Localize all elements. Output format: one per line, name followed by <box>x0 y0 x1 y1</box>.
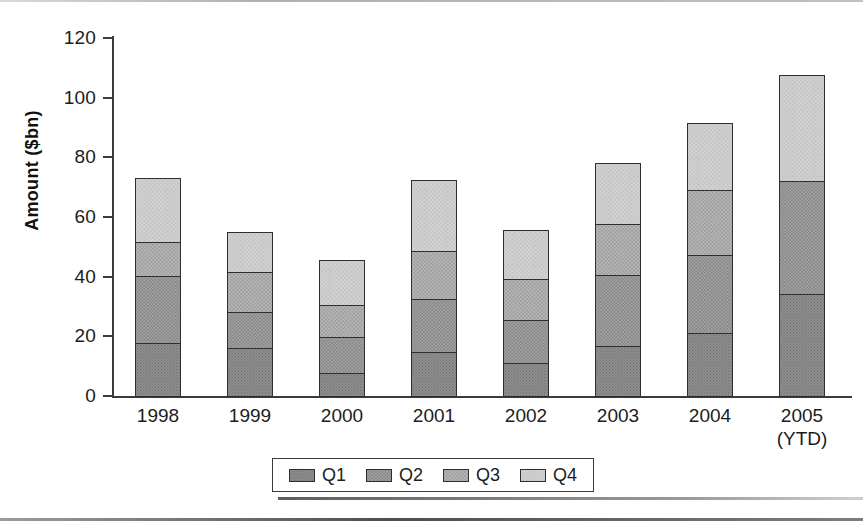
bar-segment-q2[interactable] <box>687 255 733 334</box>
legend-item-q1[interactable]: Q1 <box>289 466 346 484</box>
stacked-bar[interactable] <box>135 178 181 397</box>
bar-segment-q1[interactable] <box>411 352 457 397</box>
bar-segment-q3[interactable] <box>411 251 457 300</box>
y-axis-tick <box>103 276 112 278</box>
page-rule-bottom <box>0 518 863 521</box>
legend-label: Q4 <box>553 466 577 484</box>
x-axis-label: 1999 <box>204 404 296 427</box>
y-axis-tick-label: 20 <box>36 326 96 345</box>
bar-group <box>572 30 664 397</box>
legend-item-q2[interactable]: Q2 <box>366 466 423 484</box>
bar-group <box>112 30 204 397</box>
bar-group <box>664 30 756 397</box>
bar-segment-q1[interactable] <box>135 343 181 397</box>
x-axis-label: 2004 <box>664 404 756 427</box>
legend-label: Q3 <box>476 466 500 484</box>
bar-segment-q2[interactable] <box>227 312 273 349</box>
stacked-bar[interactable] <box>227 232 273 397</box>
page-rule-top <box>0 0 863 2</box>
x-axis-label-year: 2004 <box>689 405 731 426</box>
bar-group <box>480 30 572 397</box>
bar-segment-q4[interactable] <box>779 75 825 182</box>
bar-segment-q1[interactable] <box>227 348 273 397</box>
x-axis-label: 2003 <box>572 404 664 427</box>
y-axis-tick-label: 80 <box>36 147 96 166</box>
x-axis-label-year: 2003 <box>597 405 639 426</box>
stacked-bar[interactable] <box>687 123 733 397</box>
legend-label: Q2 <box>399 466 423 484</box>
bar-segment-q4[interactable] <box>503 230 549 281</box>
legend-item-q3[interactable]: Q3 <box>443 466 500 484</box>
x-axis-labels: 19981999200020012002200320042005(YTD) <box>112 404 852 464</box>
legend-swatch-q2 <box>366 469 392 482</box>
stacked-bar[interactable] <box>503 230 549 397</box>
y-axis-tick-label: 120 <box>36 28 96 47</box>
bar-segment-q1[interactable] <box>779 294 825 397</box>
x-axis-label-year: 1998 <box>137 405 179 426</box>
bar-group <box>296 30 388 397</box>
bar-segment-q4[interactable] <box>595 163 641 226</box>
bar-segment-q1[interactable] <box>687 333 733 397</box>
bar-segment-q4[interactable] <box>135 178 181 244</box>
x-axis-label-note: (YTD) <box>756 427 848 451</box>
legend-item-q4[interactable]: Q4 <box>520 466 577 484</box>
bar-segment-q4[interactable] <box>687 123 733 192</box>
bar-segment-q3[interactable] <box>227 272 273 314</box>
y-axis-tick-label: 100 <box>36 88 96 107</box>
bar-segment-q2[interactable] <box>411 299 457 354</box>
y-axis-tick-label: 40 <box>36 267 96 286</box>
bar-segment-q2[interactable] <box>503 320 549 365</box>
chart-figure: Amount ($bn) 020406080100120 19981999200… <box>0 0 863 531</box>
bar-group <box>388 30 480 397</box>
page-rule-middle <box>278 497 863 500</box>
bar-segment-q1[interactable] <box>595 346 641 397</box>
legend-swatch-q4 <box>520 469 546 482</box>
bar-segment-q3[interactable] <box>687 190 733 257</box>
bar-segment-q2[interactable] <box>319 337 365 374</box>
stacked-bar[interactable] <box>411 180 457 397</box>
bar-segment-q2[interactable] <box>135 276 181 345</box>
y-axis-tick <box>103 37 112 39</box>
bar-segment-q3[interactable] <box>135 242 181 278</box>
bar-segment-q4[interactable] <box>319 260 365 306</box>
bar-segment-q4[interactable] <box>411 180 457 253</box>
stacked-bar[interactable] <box>595 163 641 397</box>
legend-swatch-q1 <box>289 469 315 482</box>
y-axis-tick <box>103 97 112 99</box>
y-axis-tick-label: 60 <box>36 207 96 226</box>
y-axis-tick-label: 0 <box>36 386 96 405</box>
x-axis-label-year: 2005 <box>781 405 823 426</box>
x-axis-label: 2001 <box>388 404 480 427</box>
y-axis-tick <box>103 335 112 337</box>
bar-group <box>204 30 296 397</box>
bar-segment-q2[interactable] <box>595 275 641 348</box>
chart-legend: Q1Q2Q3Q4 <box>272 458 594 492</box>
bar-segment-q3[interactable] <box>503 279 549 321</box>
x-axis-label: 2002 <box>480 404 572 427</box>
x-axis-label-year: 2002 <box>505 405 547 426</box>
y-axis-tick <box>103 216 112 218</box>
bar-segment-q1[interactable] <box>503 363 549 397</box>
bar-segment-q1[interactable] <box>319 373 365 397</box>
stacked-bar[interactable] <box>319 260 365 397</box>
bar-group <box>756 30 848 397</box>
x-axis-label: 2000 <box>296 404 388 427</box>
x-axis-label-year: 1999 <box>229 405 271 426</box>
bar-segment-q2[interactable] <box>779 181 825 296</box>
bars-container <box>112 30 852 397</box>
y-axis-tick <box>103 395 112 397</box>
y-axis-tick <box>103 156 112 158</box>
legend-label: Q1 <box>322 466 346 484</box>
legend-swatch-q3 <box>443 469 469 482</box>
bar-segment-q3[interactable] <box>319 305 365 339</box>
x-axis-label: 1998 <box>112 404 204 427</box>
bar-segment-q3[interactable] <box>595 224 641 276</box>
x-axis-label-year: 2000 <box>321 405 363 426</box>
stacked-bar[interactable] <box>779 75 825 397</box>
x-axis-label-year: 2001 <box>413 405 455 426</box>
bar-segment-q4[interactable] <box>227 232 273 274</box>
x-axis-label: 2005(YTD) <box>756 404 848 451</box>
